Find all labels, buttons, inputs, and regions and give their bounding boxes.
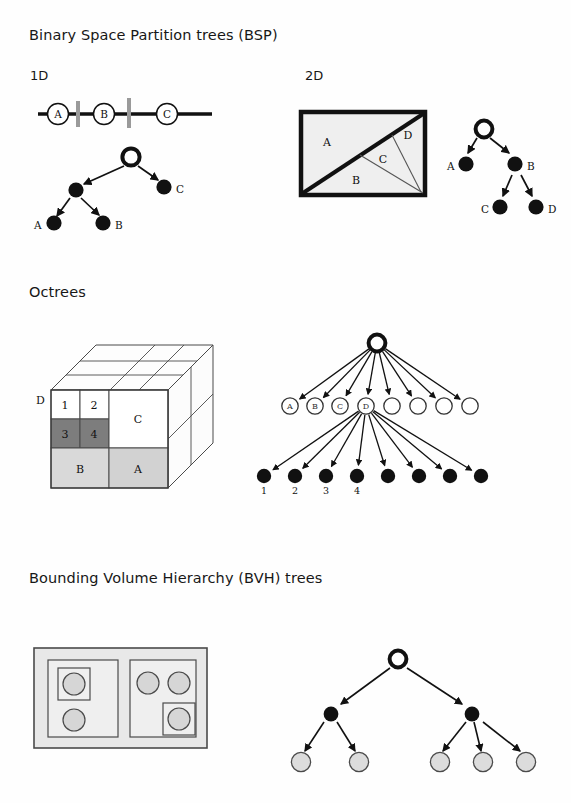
bvh-object-right-3 <box>168 708 190 730</box>
edge-right-leaf3 <box>483 722 520 751</box>
edge-root-left <box>341 668 390 704</box>
bvh-internal-node-left <box>324 707 339 722</box>
bvh-leaf-right-2 <box>473 752 492 771</box>
bvh-leaf-right-1 <box>430 752 449 771</box>
page-canvas: Binary Space Partition trees (BSP) 1D 2D… <box>0 0 571 803</box>
bvh-object-right-1 <box>137 672 159 694</box>
bvh-leaf-left-2 <box>349 752 368 771</box>
bvh-tree-edges <box>305 668 520 751</box>
bvh-leaf-left-1 <box>291 752 310 771</box>
bvh-object-left-2 <box>63 709 85 731</box>
bvh-internal-node-right <box>465 707 480 722</box>
edge-right-leaf2 <box>474 722 481 751</box>
edge-left-leaf2 <box>337 722 355 751</box>
bvh-leaf-right-3 <box>516 752 535 771</box>
edge-root-right <box>407 668 462 704</box>
bvh-root-node <box>390 651 407 668</box>
edge-right-leaf1 <box>443 722 466 751</box>
bvh-object-left-1 <box>63 673 85 695</box>
edge-left-leaf1 <box>305 722 324 751</box>
diagram-bvh <box>0 0 571 803</box>
bvh-object-right-2 <box>168 672 190 694</box>
